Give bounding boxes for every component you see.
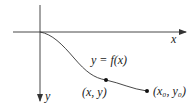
x-axis-label: x xyxy=(170,32,177,46)
diagram-canvas: x y y = f(x) (x, y) (x₀, y₀) xyxy=(0,0,194,105)
point-x-y xyxy=(104,78,108,82)
y-axis-label: y xyxy=(44,89,51,103)
point-x0-y0 xyxy=(145,89,149,93)
point-x0-y0-label: (x₀, y₀) xyxy=(153,84,186,98)
curve-label: y = f(x) xyxy=(90,53,127,67)
point-x-y-label: (x, y) xyxy=(82,85,107,99)
